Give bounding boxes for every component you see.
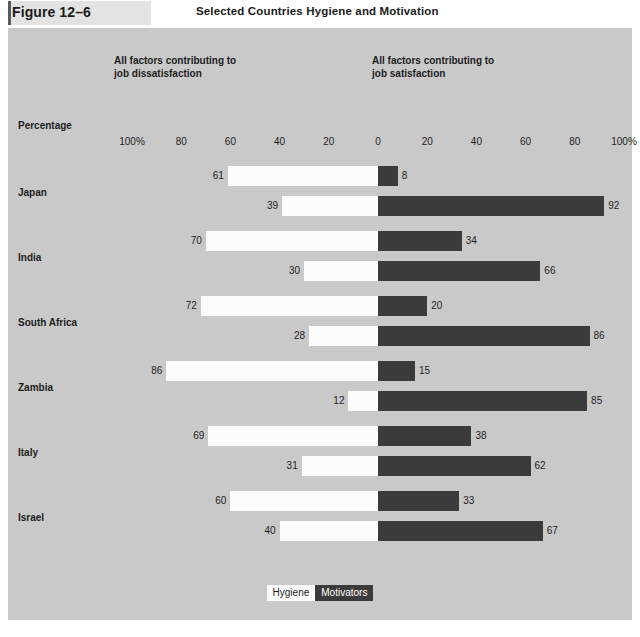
bar-dissatisfaction: [201, 296, 378, 316]
bar-satisfaction: [378, 361, 415, 381]
bar-row: 3066: [8, 261, 632, 281]
bar-value-satisfaction: 20: [427, 300, 442, 311]
axis-tick-4: 20: [323, 136, 334, 147]
bar-value-dissatisfaction: 39: [267, 200, 282, 211]
chart-panel: All factors contributing to job dissatis…: [8, 28, 632, 620]
bar-row: 1285: [8, 391, 632, 411]
chart-legend: HygieneMotivators: [8, 584, 632, 602]
bar-value-dissatisfaction: 69: [193, 430, 208, 441]
bar-value-satisfaction: 34: [462, 235, 477, 246]
bar-satisfaction: [378, 426, 471, 446]
legend-item-hygiene: Hygiene: [267, 585, 316, 601]
bar-value-satisfaction: 38: [471, 430, 486, 441]
bar-value-dissatisfaction: 12: [333, 395, 348, 406]
country-group: Japan6183992: [8, 164, 632, 227]
bar-value-satisfaction: 92: [604, 200, 619, 211]
bar-value-dissatisfaction: 31: [287, 460, 302, 471]
bar-value-dissatisfaction: 72: [186, 300, 201, 311]
figure-number: Figure 12–6: [12, 4, 91, 20]
bar-dissatisfaction: [230, 491, 378, 511]
bar-satisfaction: [378, 326, 590, 346]
axis-tick-3: 40: [274, 136, 285, 147]
bar-value-satisfaction: 85: [587, 395, 602, 406]
bar-row: 618: [8, 166, 632, 186]
axis-tick-1: 80: [176, 136, 187, 147]
bar-dissatisfaction: [228, 166, 378, 186]
bar-row: 6938: [8, 426, 632, 446]
bar-value-satisfaction: 66: [540, 265, 555, 276]
caption-dissatisfaction: All factors contributing to job dissatis…: [114, 54, 236, 80]
caption-satisfaction: All factors contributing to job satisfac…: [372, 54, 494, 80]
bar-dissatisfaction: [206, 231, 378, 251]
legend-item-motivators: Motivators: [315, 585, 373, 601]
bar-satisfaction: [378, 491, 459, 511]
figure-title: Selected Countries Hygiene and Motivatio…: [196, 5, 439, 17]
bar-row: 6033: [8, 491, 632, 511]
bar-dissatisfaction: [302, 456, 378, 476]
bar-value-satisfaction: 86: [590, 330, 605, 341]
bar-value-dissatisfaction: 60: [215, 495, 230, 506]
bar-value-satisfaction: 8: [398, 170, 408, 181]
bar-dissatisfaction: [166, 361, 378, 381]
country-group: Israel60334067: [8, 489, 632, 552]
bar-value-dissatisfaction: 28: [294, 330, 309, 341]
bar-value-satisfaction: 15: [415, 365, 430, 376]
plot-area: Japan6183992India70343066South Africa722…: [8, 164, 632, 564]
bar-row: 8615: [8, 361, 632, 381]
percentage-axis-label: Percentage: [18, 120, 72, 131]
bar-dissatisfaction: [304, 261, 378, 281]
bar-dissatisfaction: [208, 426, 378, 446]
bar-row: 3992: [8, 196, 632, 216]
bar-value-dissatisfaction: 70: [191, 235, 206, 246]
x-axis-ticks: 100%80604020020406080100%: [8, 136, 632, 152]
bar-value-satisfaction: 67: [543, 525, 558, 536]
figure-header: Figure 12–6 Selected Countries Hygiene a…: [0, 0, 640, 28]
bar-value-dissatisfaction: 40: [264, 525, 279, 536]
bar-row: 7034: [8, 231, 632, 251]
bar-row: 4067: [8, 521, 632, 541]
bar-satisfaction: [378, 296, 427, 316]
bar-satisfaction: [378, 456, 531, 476]
bar-satisfaction: [378, 166, 398, 186]
country-group: Italy69383162: [8, 424, 632, 487]
bar-dissatisfaction: [309, 326, 378, 346]
bar-value-dissatisfaction: 86: [151, 365, 166, 376]
axis-tick-0: 100%: [119, 136, 145, 147]
axis-tick-5: 0: [375, 136, 381, 147]
bar-value-satisfaction: 33: [459, 495, 474, 506]
bar-row: 7220: [8, 296, 632, 316]
bar-value-satisfaction: 62: [531, 460, 546, 471]
axis-tick-7: 40: [471, 136, 482, 147]
bar-satisfaction: [378, 261, 540, 281]
bar-value-dissatisfaction: 61: [213, 170, 228, 181]
bar-dissatisfaction: [348, 391, 378, 411]
bar-satisfaction: [378, 196, 604, 216]
bar-row: 3162: [8, 456, 632, 476]
bar-value-dissatisfaction: 30: [289, 265, 304, 276]
country-group: South Africa72202886: [8, 294, 632, 357]
bar-satisfaction: [378, 231, 462, 251]
axis-tick-10: 100%: [611, 136, 637, 147]
bar-row: 2886: [8, 326, 632, 346]
bar-dissatisfaction: [280, 521, 378, 541]
axis-tick-2: 60: [225, 136, 236, 147]
country-group: India70343066: [8, 229, 632, 292]
bar-satisfaction: [378, 521, 543, 541]
bar-satisfaction: [378, 391, 587, 411]
country-group: Zambia86151285: [8, 359, 632, 422]
axis-tick-9: 80: [569, 136, 580, 147]
axis-tick-8: 60: [520, 136, 531, 147]
bar-dissatisfaction: [282, 196, 378, 216]
axis-tick-6: 20: [422, 136, 433, 147]
